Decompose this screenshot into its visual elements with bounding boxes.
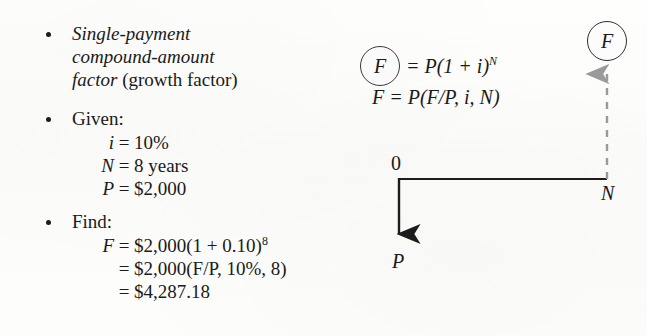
factor-line-3: factor (growth factor): [72, 68, 340, 91]
list-item-given: Given: i = 10% N = 8 years P = $2,000: [40, 107, 340, 200]
find-blank-lhs: [88, 257, 114, 280]
given-equation-row: P = $2,000: [88, 177, 340, 200]
given-value-i: 10%: [134, 131, 169, 154]
find-var-f: F: [88, 234, 114, 257]
given-var-n: N: [88, 154, 114, 177]
present-value-label: P: [392, 250, 404, 273]
given-equation-row: N = 8 years: [88, 154, 340, 177]
find-expression-1: $2,000(1 + 0.10)8: [134, 234, 268, 257]
factor-line-3-italic: factor: [72, 69, 117, 90]
bullet-dot-icon: [46, 220, 51, 225]
list-item-factor-name: Single-payment compound-amount factor (g…: [40, 22, 340, 91]
given-var-i: i: [88, 131, 114, 154]
equals-sign: =: [114, 257, 134, 280]
time-zero-label: 0: [391, 152, 401, 175]
equals-sign: =: [114, 234, 134, 257]
factor-line-1-italic: Single-payment: [72, 23, 190, 44]
factor-line-2: compound-amount: [72, 45, 340, 68]
figure-canvas: Single-payment compound-amount factor (g…: [0, 0, 647, 336]
find-equation-row: F = $2,000(1 + 0.10)8: [88, 234, 340, 257]
find-result: $4,287.18: [134, 280, 210, 303]
given-value-n: 8 years: [134, 154, 188, 177]
given-heading: Given:: [72, 107, 340, 130]
given-equation-row: i = 10%: [88, 131, 340, 154]
equals-sign: =: [114, 154, 134, 177]
list-item-find: Find: F = $2,000(1 + 0.10)8 = $2,000(F/P…: [40, 210, 340, 303]
bullet-list: Single-payment compound-amount factor (g…: [40, 22, 340, 303]
find-expression-1-exponent: 8: [262, 234, 268, 248]
spacer-2: [40, 200, 340, 210]
equals-sign: =: [114, 177, 134, 200]
equals-sign: =: [114, 280, 134, 303]
given-value-p: $2,000: [134, 177, 186, 200]
find-equation-row: = $4,287.18: [88, 280, 340, 303]
find-blank-lhs: [88, 280, 114, 303]
given-var-p: P: [88, 177, 114, 200]
period-n-label: N: [601, 182, 614, 205]
factor-line-1: Single-payment: [72, 22, 340, 45]
equals-sign: =: [114, 131, 134, 154]
find-equations: F = $2,000(1 + 0.10)8 = $2,000(F/P, 10%,…: [88, 234, 340, 303]
find-expression-2: $2,000(F/P, 10%, 8): [134, 257, 287, 280]
future-value-circle: F: [587, 21, 627, 61]
cash-flow-diagram: F 0 N P: [360, 0, 647, 336]
factor-line-3-plain: (growth factor): [117, 69, 237, 90]
spacer-1: [40, 91, 340, 107]
given-equations: i = 10% N = 8 years P = $2,000: [88, 131, 340, 200]
factor-line-2-italic: compound-amount: [72, 46, 214, 67]
find-expression-1-base: $2,000(1 + 0.10): [134, 235, 262, 256]
find-heading: Find:: [72, 210, 340, 233]
bullet-dot-icon: [46, 32, 51, 37]
find-equation-row: = $2,000(F/P, 10%, 8): [88, 257, 340, 280]
bullet-dot-icon: [46, 117, 51, 122]
